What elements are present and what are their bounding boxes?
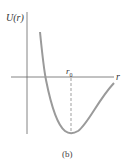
potential-curve [40,32,114,133]
r0-label: r0 [66,67,73,78]
potential-energy-plot [0,0,131,161]
figure-caption: (b) [62,150,73,159]
x-axis-label: r [116,72,120,82]
y-axis-label: U(r) [6,13,24,23]
